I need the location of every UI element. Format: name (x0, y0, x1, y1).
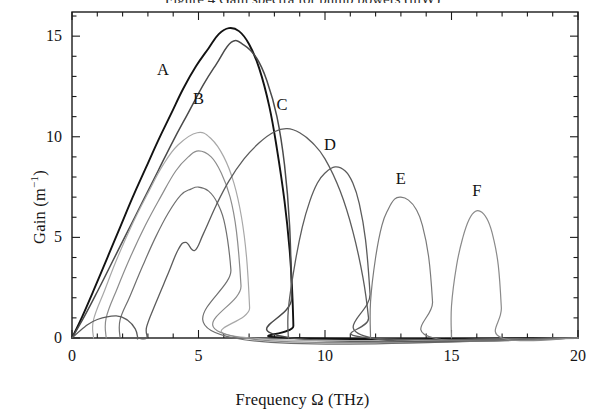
axes-frame (72, 12, 578, 338)
x-tick-label-0: 0 (68, 347, 76, 365)
x-tick-label-10: 10 (317, 347, 333, 365)
figure-container: Figure 4 Gain spectra for pump powers (m… (0, 0, 605, 414)
curve-label-E: E (396, 169, 406, 189)
axis-ticks (72, 12, 578, 338)
y-axis-label: Gain (m−1) (28, 97, 44, 317)
curve-label-A: A (157, 60, 169, 80)
curve-F (451, 210, 578, 340)
gain-spectra-plot (0, 0, 605, 414)
curve-fourth-lobe-mid (105, 151, 578, 343)
curve-label-C: C (276, 95, 287, 115)
curve-third-lobe-light (92, 132, 578, 340)
curve-B (72, 41, 578, 342)
x-tick-label-5: 5 (195, 347, 203, 365)
x-tick-label-15: 15 (444, 347, 460, 365)
curve-label-D: D (324, 135, 336, 155)
curve-C (72, 129, 578, 340)
y-tick-label-0: 0 (54, 329, 62, 347)
curve-label-F: F (472, 181, 481, 201)
y-tick-label-15: 15 (46, 27, 62, 45)
curve-layer (72, 28, 578, 344)
curve-D (288, 167, 578, 342)
x-axis-label: Frequency Ω (THz) (0, 390, 605, 410)
y-tick-label-5: 5 (54, 228, 62, 246)
x-tick-label-20: 20 (570, 347, 586, 365)
curve-fifth-lobe-gray (119, 187, 578, 344)
curve-E (370, 197, 578, 341)
y-tick-label-10: 10 (46, 128, 62, 146)
curve-A (72, 28, 578, 339)
curve-label-B: B (193, 89, 204, 109)
